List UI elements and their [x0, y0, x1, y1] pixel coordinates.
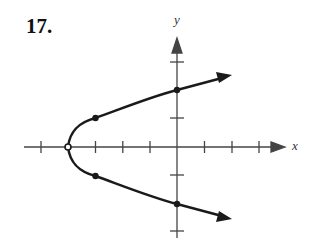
parabola-graph [0, 0, 312, 240]
y-axis-arrow-icon [172, 38, 182, 53]
x-axis-arrow-icon [271, 142, 285, 152]
point-neg3-neg1 [92, 173, 98, 179]
upper-arrow-icon [216, 72, 232, 83]
point-0-2 [174, 87, 180, 93]
y-axis [170, 38, 184, 238]
lower-arrow-icon [216, 211, 232, 222]
point-0-neg2 [174, 201, 180, 207]
vertex-open-point [65, 144, 71, 150]
x-axis [24, 141, 285, 153]
point-neg3-1 [92, 115, 98, 121]
